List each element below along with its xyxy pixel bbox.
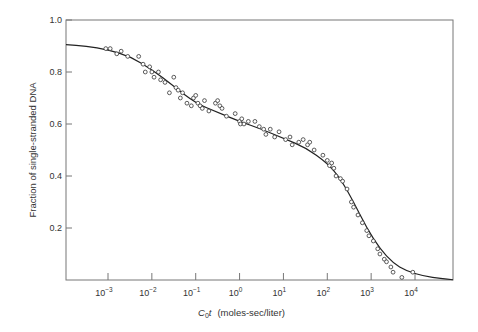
fitted-curve <box>66 45 453 280</box>
x-tick-label: 104 <box>404 286 418 298</box>
data-point <box>411 270 415 274</box>
data-point <box>332 166 336 170</box>
data-point <box>400 276 404 280</box>
x-axis-title: C0t(moles-sec/liter) <box>198 307 285 319</box>
x-tick-label: 102 <box>316 286 330 298</box>
data-point <box>141 62 145 66</box>
data-point <box>352 205 356 209</box>
y-axis-title: Fraction of single-stranded DNA <box>27 82 38 218</box>
data-point <box>253 120 257 124</box>
data-point <box>257 125 261 129</box>
y-tick-label: 1.0 <box>49 15 62 25</box>
data-point <box>290 143 294 147</box>
data-point <box>225 114 229 118</box>
data-point <box>262 127 266 131</box>
data-point <box>150 70 154 74</box>
data-point <box>240 117 244 121</box>
data-point <box>203 99 207 103</box>
data-point <box>152 75 156 79</box>
data-point <box>119 49 123 53</box>
x-tick-label: 10−3 <box>95 286 113 298</box>
data-point <box>330 161 334 165</box>
data-point <box>216 99 220 103</box>
data-point <box>308 140 312 144</box>
data-point <box>126 55 130 59</box>
data-point <box>242 122 246 126</box>
data-point <box>350 200 354 204</box>
x-axis: 10−310−210−1100101102103104 <box>95 273 418 298</box>
data-point <box>273 135 277 139</box>
data-point <box>385 260 389 264</box>
data-point <box>391 270 395 274</box>
data-point <box>189 104 193 108</box>
data-point <box>345 187 349 191</box>
data-point <box>321 153 325 157</box>
data-point <box>301 138 305 142</box>
data-point <box>137 55 141 59</box>
data-point <box>220 107 224 111</box>
data-point <box>143 70 147 74</box>
data-point <box>163 81 167 85</box>
x-tick-label: 101 <box>273 286 287 298</box>
data-points <box>104 47 415 280</box>
data-point <box>371 239 375 243</box>
x-tick-label: 100 <box>229 286 243 298</box>
x-tick-label: 10−2 <box>139 286 157 298</box>
y-tick-label: 0.8 <box>49 67 62 77</box>
data-point <box>108 47 112 51</box>
data-point <box>176 88 180 92</box>
data-point <box>172 75 176 79</box>
data-point <box>288 135 292 139</box>
data-point <box>178 96 182 100</box>
data-point <box>264 133 268 137</box>
fitted-curve-line <box>66 45 453 280</box>
data-point <box>207 109 211 113</box>
y-tick-label: 0.4 <box>49 171 62 181</box>
data-point <box>148 65 152 69</box>
data-point <box>365 229 369 233</box>
data-point <box>268 127 272 131</box>
y-tick-label: 0.2 <box>49 223 62 233</box>
data-point <box>233 112 237 116</box>
y-tick-label: 0.6 <box>49 119 62 129</box>
data-point <box>378 252 382 256</box>
data-point <box>200 107 204 111</box>
data-point <box>297 140 301 144</box>
data-point <box>185 101 189 105</box>
data-point <box>168 91 172 95</box>
data-point <box>159 78 163 82</box>
data-point <box>312 148 316 152</box>
data-point <box>157 70 161 74</box>
data-point <box>194 94 198 98</box>
data-point <box>334 174 338 178</box>
y-axis: 0.20.40.60.81.0 <box>49 15 72 233</box>
data-point <box>181 91 185 95</box>
plot-frame <box>66 20 453 280</box>
data-point <box>115 52 119 56</box>
data-point <box>360 221 364 225</box>
data-point <box>341 179 345 183</box>
data-point <box>389 265 393 269</box>
x-tick-label: 103 <box>360 286 374 298</box>
data-point <box>284 138 288 142</box>
data-point <box>277 130 281 134</box>
data-point <box>246 120 250 124</box>
data-point <box>104 47 108 51</box>
chart-svg: 0.20.40.60.81.0 10−310−210−1100101102103… <box>0 0 478 332</box>
data-point <box>325 159 329 163</box>
data-point <box>356 213 360 217</box>
data-point <box>376 247 380 251</box>
x-tick-label: 10−1 <box>183 286 201 298</box>
data-point <box>367 234 371 238</box>
